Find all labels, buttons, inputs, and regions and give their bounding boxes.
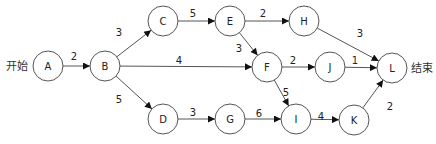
node-e: E [215, 6, 245, 36]
node-d: D [148, 104, 178, 134]
node-b: B [90, 51, 120, 81]
node-label: D [159, 114, 167, 125]
node-label: C [160, 16, 167, 27]
node-label: L [389, 63, 395, 74]
edge-e-f: 3 [236, 33, 258, 56]
node-i: I [281, 104, 311, 134]
edge-weight: 3 [116, 27, 122, 38]
edge-f-i: 5 [274, 80, 289, 106]
edge-weight: 2 [290, 55, 296, 66]
edge-weight: 4 [176, 55, 182, 66]
node-f: F [252, 52, 282, 82]
node-label: I [295, 114, 298, 125]
network-diagram: 234553236253142 ABCDEFGHIJKL 开始 结束 [0, 0, 436, 144]
node-label: H [300, 16, 308, 27]
node-k: K [339, 105, 369, 135]
edge-weight: 5 [283, 87, 289, 98]
edge-weight: 3 [190, 107, 196, 118]
edge-weight: 5 [116, 94, 122, 105]
node-h: H [289, 6, 319, 36]
edge-d-g: 3 [178, 107, 215, 119]
edge-a-b: 2 [63, 51, 90, 66]
node-label: A [45, 61, 52, 72]
node-label: K [351, 115, 358, 126]
edge-f-j: 2 [282, 55, 315, 67]
edge-b-c: 3 [116, 27, 151, 57]
node-c: C [148, 6, 178, 36]
start-label: 开始 [6, 59, 28, 73]
node-label: F [264, 62, 270, 73]
edge-weight: 3 [236, 43, 242, 54]
edge-e-h: 2 [245, 8, 289, 21]
node-l: L [377, 53, 407, 83]
edge-arrow-icon [363, 80, 383, 108]
node-label: G [226, 114, 234, 125]
node-j: J [315, 52, 345, 82]
edge-i-k: 4 [311, 111, 339, 122]
edge-g-i: 6 [245, 108, 281, 119]
end-label: 结束 [411, 62, 433, 75]
edge-weight: 2 [260, 8, 266, 19]
edge-weight: 1 [352, 55, 358, 66]
edge-weight: 2 [71, 51, 77, 62]
edge-b-d: 5 [116, 76, 152, 109]
node-label: J [328, 62, 332, 73]
edge-arrow-icon [345, 67, 377, 68]
edge-c-e: 5 [178, 8, 215, 21]
edge-weight: 5 [190, 8, 196, 19]
edge-weight: 3 [357, 28, 363, 39]
edge-weight: 2 [387, 101, 393, 112]
node-g: G [215, 104, 245, 134]
edge-arrow-icon [120, 66, 252, 67]
edge-weight: 4 [318, 111, 324, 122]
node-label: B [102, 61, 109, 72]
edge-weight: 6 [256, 108, 262, 119]
edge-b-f: 4 [120, 55, 252, 67]
edge-k-l: 2 [363, 80, 393, 112]
node-a: A [33, 51, 63, 81]
node-label: E [227, 16, 233, 27]
